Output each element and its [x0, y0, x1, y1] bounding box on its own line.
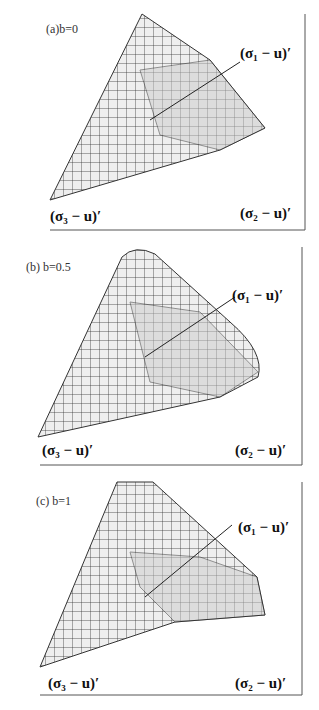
axis-label-sigma3: (σ₃ − u)′	[50, 208, 101, 225]
axis-label-sigma1: (σ₁ − u)′	[232, 287, 283, 304]
panel-b: (b) b=0.5 (σ₁ − u)′ (σ₂ − u)′ (σ₃ − u)′	[0, 232, 319, 467]
panel-label: (a)b=0	[46, 22, 78, 37]
panel-c: (c) b=1 (σ₁ − u)′ (σ₂ − u)′ (σ₃ − u)′	[0, 467, 319, 710]
axis-label-sigma2: (σ₂ − u)′	[235, 442, 286, 459]
axis-label-sigma3: (σ₃ − u)′	[48, 675, 99, 692]
panel-label: (b) b=0.5	[26, 260, 71, 275]
axis-label-sigma2: (σ₂ − u)′	[240, 205, 291, 222]
axis-label-sigma1: (σ₁ − u)′	[238, 519, 289, 536]
panel-a: (a)b=0 (σ₁ − u)′ (σ₂ − u)′ (σ₃ − u)′	[0, 0, 319, 232]
axis-label-sigma3: (σ₃ − u)′	[42, 442, 93, 459]
panel-label: (c) b=1	[36, 494, 71, 509]
axis-label-sigma1: (σ₁ − u)′	[240, 45, 291, 62]
axis-label-sigma2: (σ₂ − u)′	[235, 675, 286, 692]
